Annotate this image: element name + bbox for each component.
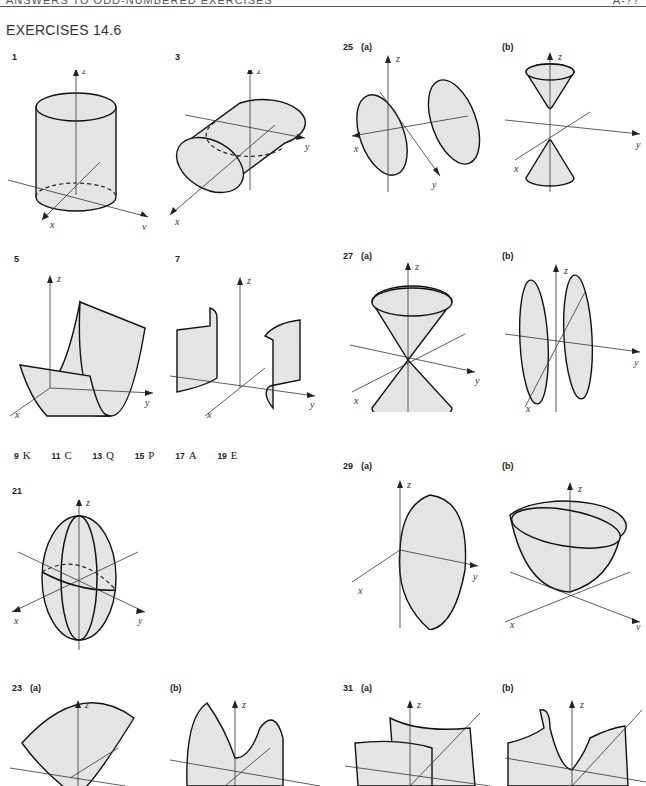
figure-25a-cone: z x y bbox=[340, 52, 495, 202]
figure-25b-cone: z y x bbox=[500, 52, 646, 202]
answer-19: 19E bbox=[217, 450, 237, 461]
svg-text:z: z bbox=[56, 273, 61, 284]
svg-text:y: y bbox=[309, 399, 315, 410]
svg-text:x: x bbox=[206, 409, 212, 418]
answer-9: 9K bbox=[14, 450, 31, 461]
svg-text:z: z bbox=[395, 53, 400, 64]
figure-label-7: 7 bbox=[175, 254, 180, 264]
label-num: 23 bbox=[12, 683, 22, 693]
svg-text:z: z bbox=[85, 500, 90, 508]
figure-label-21: 21 bbox=[12, 486, 22, 496]
svg-text:z: z bbox=[246, 275, 251, 286]
label-part-a: (a) bbox=[361, 461, 372, 471]
answer-num: 15 bbox=[135, 451, 144, 461]
svg-text:x: x bbox=[509, 619, 515, 630]
answer-13: 13Q bbox=[93, 450, 114, 461]
svg-text:z: z bbox=[577, 483, 582, 494]
svg-text:z: z bbox=[557, 52, 562, 62]
label-num: 31 bbox=[343, 683, 353, 693]
section-title: EXERCISES 14.6 bbox=[6, 22, 121, 38]
svg-text:x: x bbox=[513, 163, 519, 174]
svg-text:z: z bbox=[84, 699, 89, 710]
figure-label-29b: (b) bbox=[502, 461, 514, 471]
figure-label-23: 23(a) bbox=[12, 683, 41, 693]
answer-15: 15P bbox=[135, 450, 155, 461]
svg-text:x: x bbox=[13, 615, 19, 626]
answer-num: 17 bbox=[175, 451, 184, 461]
answers-row: 9K 11C 13Q 15P 17A 19E bbox=[14, 449, 256, 461]
svg-text:x: x bbox=[49, 219, 55, 230]
figure-31a-saddle: z bbox=[340, 698, 490, 786]
figure-label-25b: (b) bbox=[502, 42, 514, 52]
figure-label-29: 29(a) bbox=[343, 461, 372, 471]
answer-val: A bbox=[189, 449, 197, 461]
label-part-a: (a) bbox=[361, 683, 372, 693]
answer-num: 11 bbox=[51, 451, 60, 461]
answer-val: C bbox=[64, 449, 71, 461]
svg-text:z: z bbox=[414, 262, 419, 272]
svg-text:x: x bbox=[353, 143, 359, 154]
label-part-a: (a) bbox=[361, 251, 372, 261]
svg-text:y: y bbox=[431, 179, 437, 190]
figure-27b-double-cone: z y x bbox=[500, 262, 646, 412]
answer-17: 17A bbox=[175, 450, 196, 461]
svg-text:x: x bbox=[174, 216, 180, 227]
figure-1-cylinder: z y x bbox=[0, 70, 160, 230]
figure-27a-double-cone: z y x bbox=[340, 262, 490, 412]
label-part-a: (a) bbox=[361, 42, 372, 52]
figure-31b-saddle: z bbox=[500, 698, 646, 786]
label-num: 25 bbox=[343, 42, 353, 52]
svg-text:z: z bbox=[416, 699, 421, 710]
header-rule bbox=[0, 6, 646, 7]
svg-text:y: y bbox=[137, 615, 143, 626]
figure-23a-hyperboloid: z bbox=[0, 698, 160, 786]
figure-5-parabolic-cylinder: z y x bbox=[5, 268, 155, 418]
svg-text:y: y bbox=[304, 141, 310, 152]
figure-label-31b: (b) bbox=[502, 683, 514, 693]
figure-label-31: 31(a) bbox=[343, 683, 372, 693]
svg-text:z: z bbox=[256, 70, 261, 76]
answer-num: 19 bbox=[217, 451, 226, 461]
figure-21-ellipsoid: z y x bbox=[0, 500, 160, 650]
figure-29b-paraboloid: z y x bbox=[500, 480, 646, 630]
figure-label-23b: (b) bbox=[170, 683, 182, 693]
svg-text:z: z bbox=[563, 265, 568, 276]
svg-text:z: z bbox=[81, 70, 86, 76]
label-num: 29 bbox=[343, 461, 353, 471]
svg-text:x: x bbox=[525, 403, 531, 412]
answer-num: 13 bbox=[93, 451, 102, 461]
answer-val: E bbox=[231, 449, 238, 461]
svg-text:y: y bbox=[635, 139, 641, 150]
svg-text:y: y bbox=[633, 357, 639, 368]
answer-11: 11C bbox=[51, 450, 71, 461]
svg-text:x: x bbox=[14, 409, 20, 418]
figure-label-5: 5 bbox=[14, 254, 19, 264]
svg-text:x: x bbox=[357, 585, 363, 596]
figure-label-1: 1 bbox=[12, 52, 17, 62]
figure-7-surface: z y x bbox=[165, 268, 325, 418]
label-part-a: (a) bbox=[30, 683, 41, 693]
svg-text:z: z bbox=[241, 699, 246, 710]
svg-text:y: y bbox=[141, 221, 147, 230]
figure-label-27: 27(a) bbox=[343, 251, 372, 261]
answer-num: 9 bbox=[14, 451, 19, 461]
svg-text:z: z bbox=[579, 699, 584, 710]
svg-text:z: z bbox=[406, 480, 411, 490]
figure-label-25: 25(a) bbox=[343, 42, 372, 52]
figure-label-27b: (b) bbox=[502, 251, 514, 261]
svg-text:y: y bbox=[144, 397, 150, 408]
answer-val: Q bbox=[106, 449, 114, 461]
answer-val: K bbox=[23, 449, 31, 461]
figure-23b-hyperboloid: z bbox=[165, 698, 325, 786]
svg-text:y: y bbox=[474, 375, 480, 386]
figure-3-cylinder: z y x bbox=[165, 70, 325, 230]
figure-label-3: 3 bbox=[175, 52, 180, 62]
svg-text:y: y bbox=[472, 571, 478, 582]
label-num: 27 bbox=[343, 251, 353, 261]
figure-29a-paraboloid: z y x bbox=[340, 480, 490, 630]
svg-text:y: y bbox=[635, 621, 641, 630]
svg-text:x: x bbox=[353, 395, 359, 406]
answer-val: P bbox=[148, 449, 154, 461]
